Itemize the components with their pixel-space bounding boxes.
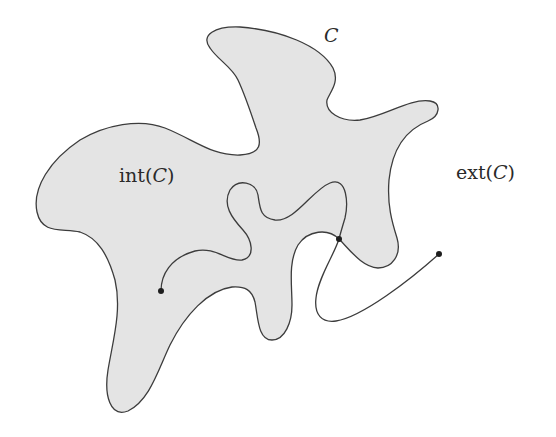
exterior-label-prefix: ext(	[456, 161, 493, 183]
crossing-point-on-curve	[336, 236, 342, 242]
interior-label-suffix: )	[167, 164, 174, 186]
curve-label: C	[324, 24, 339, 46]
exterior-label-var: C	[493, 161, 508, 183]
jordan-curve-diagram: C int(C) ext(C)	[0, 0, 556, 437]
start-point-interior	[158, 288, 164, 294]
interior-label-prefix: int(	[119, 164, 152, 186]
exterior-label: ext(C)	[456, 161, 515, 183]
curve-c-interior-region	[36, 27, 438, 412]
interior-label: int(C)	[119, 164, 174, 186]
interior-label-var: C	[152, 164, 167, 186]
exterior-label-suffix: )	[508, 161, 515, 183]
end-point-exterior	[436, 251, 442, 257]
